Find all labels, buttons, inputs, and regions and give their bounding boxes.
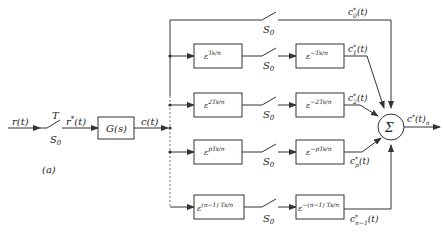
svg-text:c(t): c(t) — [141, 116, 159, 127]
svg-text:c*n−1(t): c*n−1(t) — [350, 213, 379, 226]
input-signal: r(t) — [8, 116, 47, 128]
plant-block: G(s) — [98, 117, 134, 139]
svg-text:c*p(t): c*p(t) — [350, 155, 370, 169]
svg-text:c*0(t): c*0(t) — [348, 6, 368, 19]
summing-junction: Σ c*(t)n — [378, 113, 440, 140]
svg-text:S0: S0 — [263, 109, 275, 122]
delay-block-2 — [296, 93, 344, 117]
delay-block-1 — [296, 44, 344, 68]
svg-text:Σ: Σ — [384, 121, 394, 135]
advance-block-2 — [194, 93, 242, 117]
svg-text:c*2(t): c*2(t) — [348, 92, 368, 105]
input-sampler-switch: T S0 — [47, 110, 62, 147]
advance-block-p — [194, 140, 242, 164]
svg-text:r(t): r(t) — [12, 116, 29, 127]
svg-text:S0: S0 — [263, 24, 275, 37]
svg-text:r*(t): r*(t) — [66, 115, 86, 127]
branch-p: εpTs/n S0 ε−pTs/n c*p(t) — [168, 138, 381, 169]
sampled-input: r*(t) — [62, 115, 98, 128]
svg-text:S0: S0 — [263, 213, 275, 226]
advance-block-1 — [194, 44, 242, 68]
svg-text:S0: S0 — [50, 134, 62, 147]
delay-block-p — [296, 140, 344, 164]
svg-text:T: T — [52, 110, 60, 121]
svg-text:G(s): G(s) — [106, 123, 127, 134]
subfigure-label: (a) — [42, 164, 56, 175]
svg-text:S0: S0 — [263, 156, 275, 169]
plant-output: c(t) — [134, 116, 172, 130]
block-diagram: r(t) T S0 r*(t) G(s) c(t) (a) S0 c*0(t) — [0, 0, 444, 238]
svg-text:c*(t)n: c*(t)n — [407, 113, 430, 126]
svg-text:S0: S0 — [263, 60, 275, 73]
branch-2: ε2Ts/n S0 ε−2Ts/n c*2(t) — [168, 92, 378, 122]
svg-text:c*1(t): c*1(t) — [348, 43, 368, 56]
